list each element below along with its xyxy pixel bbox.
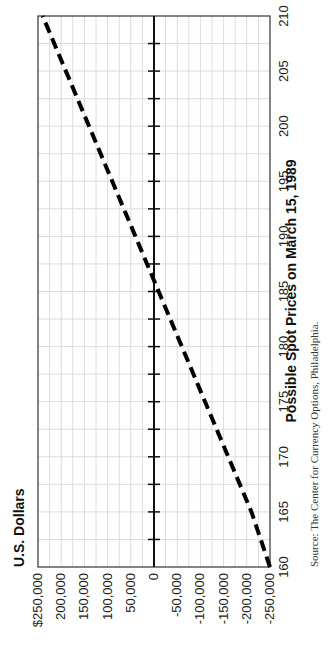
y-tick-label: -200,000 — [239, 573, 254, 624]
y-tick-label: 100,000 — [100, 573, 115, 620]
y-tick-label: 200,000 — [53, 573, 68, 620]
x-tick-label: 205 — [276, 60, 291, 82]
x-tick-label: 210 — [276, 5, 291, 27]
y-tick-label: -250,000 — [262, 573, 277, 624]
payoff-chart: $250,000200,000150,000100,00050,0000-50,… — [0, 0, 330, 651]
y-tick-label: -100,000 — [192, 573, 207, 624]
y-tick-label: 0 — [146, 573, 161, 580]
source-note: Source: The Center for Currency Options,… — [308, 321, 320, 567]
y-tick-label: 150,000 — [76, 573, 91, 620]
y-axis-tick-labels: $250,000200,000150,000100,00050,0000-50,… — [30, 573, 277, 627]
rotated-chart-page: $250,000200,000150,000100,00050,0000-50,… — [0, 0, 330, 651]
y-tick-label: -150,000 — [216, 573, 231, 624]
x-tick-label: 160 — [276, 556, 291, 578]
x-axis-title: Possible Spot Prices on March 15, 1989 — [283, 159, 299, 422]
y-tick-label: 50,000 — [123, 573, 138, 613]
y-tick-label: -50,000 — [169, 573, 184, 617]
x-tick-label: 165 — [276, 501, 291, 523]
y-tick-label: $250,000 — [30, 573, 45, 627]
y-axis-title: U.S. Dollars — [11, 488, 27, 567]
x-tick-label: 200 — [276, 115, 291, 137]
x-tick-label: 170 — [276, 446, 291, 468]
